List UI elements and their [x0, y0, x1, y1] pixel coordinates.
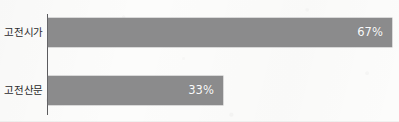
bar-value-label-0: 67% — [48, 18, 392, 47]
bar-row: 고전시가 67% — [0, 18, 399, 47]
bar-value-label-1: 33% — [48, 76, 223, 105]
bar-row: 고전산문 33% — [0, 76, 399, 105]
bar-chart: 고전시가 67% 고전산문 33% — [0, 0, 399, 122]
category-label-0: 고전시가 — [0, 18, 42, 47]
scan-edge-line — [0, 121, 399, 122]
category-label-1: 고전산문 — [0, 76, 42, 105]
